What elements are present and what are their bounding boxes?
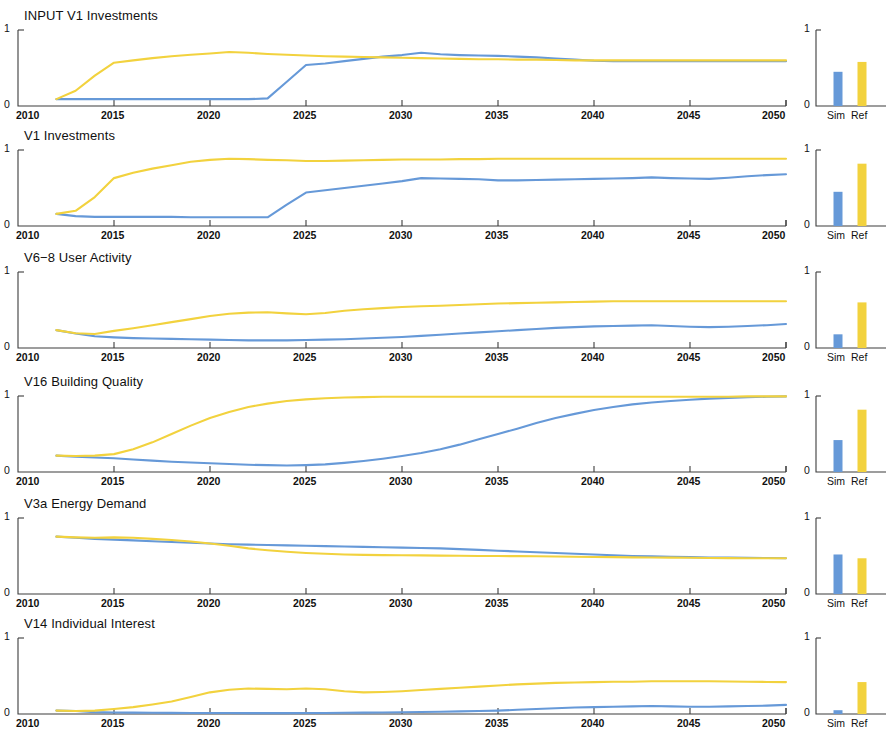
x-tick-label: 2045: [677, 475, 700, 487]
y-tick-top: 1: [4, 630, 10, 642]
x-tick-label: 2040: [581, 717, 604, 729]
panel-6: V14 Individual Interest10201020152020202…: [0, 616, 892, 730]
bar-ref: [858, 62, 867, 106]
x-tick-label: 2040: [581, 475, 604, 487]
y-tick-bottom: 0: [4, 464, 10, 476]
x-tick-label: 2010: [16, 475, 39, 487]
y-tick-top: 1: [4, 142, 10, 154]
x-tick-label: 2010: [16, 229, 39, 241]
x-tick-label: 2050: [762, 597, 785, 609]
x-tick-label: 2040: [581, 597, 604, 609]
x-tick-label: 2015: [101, 717, 124, 729]
bar-y-tick-bottom: 0: [804, 98, 810, 110]
bar-category-label-ref: Ref: [851, 597, 867, 609]
x-tick-label: 2035: [485, 597, 508, 609]
x-tick-label: 2010: [16, 597, 39, 609]
bar-category-label-sim: Sim: [827, 351, 845, 363]
bar-y-tick-bottom: 0: [804, 706, 810, 718]
bar-chart-5: [0, 496, 892, 610]
panel-4: V16 Building Quality10201020152020202520…: [0, 374, 892, 488]
y-tick-bottom: 0: [4, 98, 10, 110]
x-tick-label: 2025: [293, 109, 316, 121]
x-tick-label: 2035: [485, 109, 508, 121]
x-tick-label: 2020: [197, 109, 220, 121]
x-tick-label: 2020: [197, 475, 220, 487]
bar-sim: [834, 440, 843, 472]
panel-2: V1 Investments10201020152020202520302035…: [0, 128, 892, 242]
bar-category-label-sim: Sim: [827, 229, 845, 241]
x-tick-label: 2030: [389, 351, 412, 363]
x-tick-label: 2025: [293, 597, 316, 609]
x-tick-label: 2040: [581, 351, 604, 363]
bar-y-tick-top: 1: [804, 388, 810, 400]
x-tick-label: 2035: [485, 717, 508, 729]
bar-category-label-sim: Sim: [827, 597, 845, 609]
bar-chart-4: [0, 374, 892, 488]
x-tick-label: 2015: [101, 351, 124, 363]
bar-category-label-ref: Ref: [851, 109, 867, 121]
bar-y-tick-top: 1: [804, 264, 810, 276]
x-tick-label: 2015: [101, 109, 124, 121]
bar-ref: [858, 302, 867, 348]
x-tick-label: 2050: [762, 351, 785, 363]
x-tick-label: 2050: [762, 109, 785, 121]
bar-ref: [858, 164, 867, 226]
x-tick-label: 2020: [197, 229, 220, 241]
bar-y-tick-top: 1: [804, 22, 810, 34]
bar-sim: [834, 192, 843, 226]
bar-y-tick-bottom: 0: [804, 586, 810, 598]
bar-sim: [834, 710, 843, 714]
bar-chart-1: [0, 8, 892, 122]
panel-1: INPUT V1 Investments10201020152020202520…: [0, 8, 892, 122]
bar-sim: [834, 334, 843, 348]
x-tick-label: 2025: [293, 717, 316, 729]
y-tick-top: 1: [4, 388, 10, 400]
x-tick-label: 2035: [485, 351, 508, 363]
x-tick-label: 2045: [677, 109, 700, 121]
bar-y-tick-bottom: 0: [804, 464, 810, 476]
bar-y-tick-top: 1: [804, 510, 810, 522]
x-tick-label: 2015: [101, 475, 124, 487]
x-tick-label: 2020: [197, 717, 220, 729]
x-tick-label: 2045: [677, 351, 700, 363]
x-tick-label: 2035: [485, 229, 508, 241]
x-tick-label: 2020: [197, 597, 220, 609]
x-tick-label: 2040: [581, 109, 604, 121]
bar-chart-3: [0, 250, 892, 364]
bar-y-tick-top: 1: [804, 142, 810, 154]
x-tick-label: 2030: [389, 109, 412, 121]
x-tick-label: 2035: [485, 475, 508, 487]
bar-y-tick-top: 1: [804, 630, 810, 642]
bar-sim: [834, 72, 843, 106]
bar-chart-2: [0, 128, 892, 242]
y-tick-bottom: 0: [4, 586, 10, 598]
bar-chart-6: [0, 616, 892, 730]
x-tick-label: 2040: [581, 229, 604, 241]
x-tick-label: 2030: [389, 597, 412, 609]
bar-y-tick-bottom: 0: [804, 218, 810, 230]
y-tick-bottom: 0: [4, 340, 10, 352]
x-tick-label: 2010: [16, 351, 39, 363]
bar-category-label-sim: Sim: [827, 109, 845, 121]
x-tick-label: 2030: [389, 717, 412, 729]
panel-5: V3a Energy Demand10201020152020202520302…: [0, 496, 892, 610]
x-tick-label: 2050: [762, 229, 785, 241]
y-tick-top: 1: [4, 264, 10, 276]
x-tick-label: 2025: [293, 229, 316, 241]
multi-panel-figure: INPUT V1 Investments10201020152020202520…: [0, 0, 892, 730]
x-tick-label: 2045: [677, 717, 700, 729]
x-tick-label: 2015: [101, 597, 124, 609]
x-tick-label: 2050: [762, 475, 785, 487]
x-tick-label: 2030: [389, 229, 412, 241]
x-tick-label: 2025: [293, 351, 316, 363]
x-tick-label: 2030: [389, 475, 412, 487]
x-tick-label: 2050: [762, 717, 785, 729]
y-tick-top: 1: [4, 510, 10, 522]
x-tick-label: 2010: [16, 717, 39, 729]
bar-ref: [858, 682, 867, 714]
x-tick-label: 2045: [677, 229, 700, 241]
x-tick-label: 2045: [677, 597, 700, 609]
bar-category-label-sim: Sim: [827, 475, 845, 487]
bar-sim: [834, 554, 843, 594]
bar-category-label-sim: Sim: [827, 717, 845, 729]
